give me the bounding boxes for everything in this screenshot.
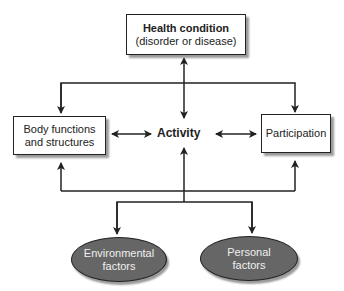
health-condition-subtitle: (disorder or disease): [136, 35, 237, 48]
body-functions-line1: Body functions: [23, 123, 95, 136]
health-condition-box: Health condition (disorder or disease): [126, 14, 246, 55]
personal-line2: factors: [232, 259, 265, 272]
activity-label: Activity: [157, 126, 200, 140]
personal-factors-oval: Personal factors: [200, 236, 298, 281]
body-functions-line2: and structures: [25, 136, 95, 149]
participation-label: Participation: [266, 127, 327, 140]
environmental-line1: Environmental: [84, 247, 154, 260]
participation-box: Participation: [261, 114, 331, 153]
health-condition-title: Health condition: [143, 22, 229, 35]
body-functions-box: Body functions and structures: [13, 116, 106, 155]
personal-line1: Personal: [227, 246, 270, 259]
environmental-line2: factors: [102, 260, 135, 273]
environmental-factors-oval: Environmental factors: [71, 237, 167, 282]
